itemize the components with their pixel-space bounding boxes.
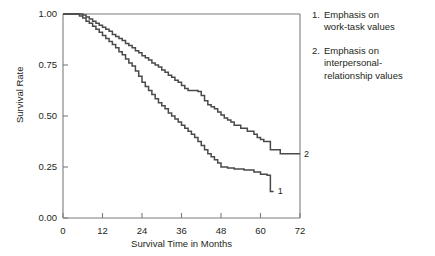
x-tick-label: 72 bbox=[280, 226, 320, 236]
legend-item-line: Emphasis on bbox=[324, 45, 432, 57]
x-tick-label: 24 bbox=[122, 226, 162, 236]
chart-legend: 1.Emphasis onwork-task values2.Emphasis … bbox=[312, 9, 432, 93]
curve-end-label-1: 1 bbox=[278, 187, 283, 196]
legend-item-label: Emphasis oninterpersonal-relationship va… bbox=[324, 45, 432, 82]
survival-chart-figure: 0.000.250.500.751.00 0122436486072 Survi… bbox=[0, 0, 435, 256]
legend-item-label: Emphasis onwork-task values bbox=[324, 9, 432, 34]
legend-item-number: 2. bbox=[312, 45, 324, 57]
y-tick-label: 1.00 bbox=[11, 9, 57, 19]
legend-item-number: 1. bbox=[312, 9, 324, 21]
curve-end-label-2: 2 bbox=[304, 150, 309, 159]
legend-item-line: relationship values bbox=[324, 70, 432, 82]
y-tick-label: 0.25 bbox=[11, 162, 57, 172]
y-axis-title: Survival Rate bbox=[15, 55, 25, 135]
legend-item-line: Emphasis on bbox=[324, 9, 432, 21]
x-axis-ticks bbox=[63, 213, 300, 218]
legend-item-line: work-task values bbox=[324, 21, 432, 33]
plot-frame bbox=[63, 14, 300, 218]
y-tick-label: 0.00 bbox=[11, 213, 57, 223]
x-tick-label: 48 bbox=[201, 226, 241, 236]
x-tick-label: 60 bbox=[241, 226, 281, 236]
survival-curve-1 bbox=[63, 14, 274, 191]
survival-curves bbox=[63, 14, 300, 191]
x-tick-label: 12 bbox=[83, 226, 123, 236]
x-tick-label: 36 bbox=[162, 226, 202, 236]
y-axis-ticks bbox=[63, 14, 68, 218]
survival-curve-2 bbox=[63, 14, 300, 154]
x-axis-title: Survival Time in Months bbox=[63, 239, 300, 249]
legend-item-line: interpersonal- bbox=[324, 57, 432, 69]
x-tick-label: 0 bbox=[43, 226, 83, 236]
legend-item: 2.Emphasis oninterpersonal-relationship … bbox=[312, 45, 432, 82]
legend-item: 1.Emphasis onwork-task values bbox=[312, 9, 432, 34]
